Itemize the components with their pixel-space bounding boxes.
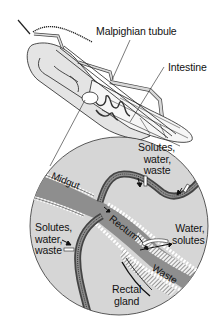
insect-excretory-illustration [0, 0, 222, 336]
label-rectal-gland: Rectal gland [112, 284, 141, 307]
label-solutes-water-waste-left: Solutes, water, waste [35, 222, 72, 257]
label-water-solutes: Water, solutes [172, 223, 205, 246]
label-solutes-water-waste-top: Solutes, water, waste [138, 142, 175, 177]
label-intestine: Intestine [168, 62, 207, 73]
label-malpighian-tubule: Malpighian tubule [96, 26, 177, 37]
diagram-canvas: Malpighian tubule Intestine Solutes, wat… [0, 0, 222, 336]
